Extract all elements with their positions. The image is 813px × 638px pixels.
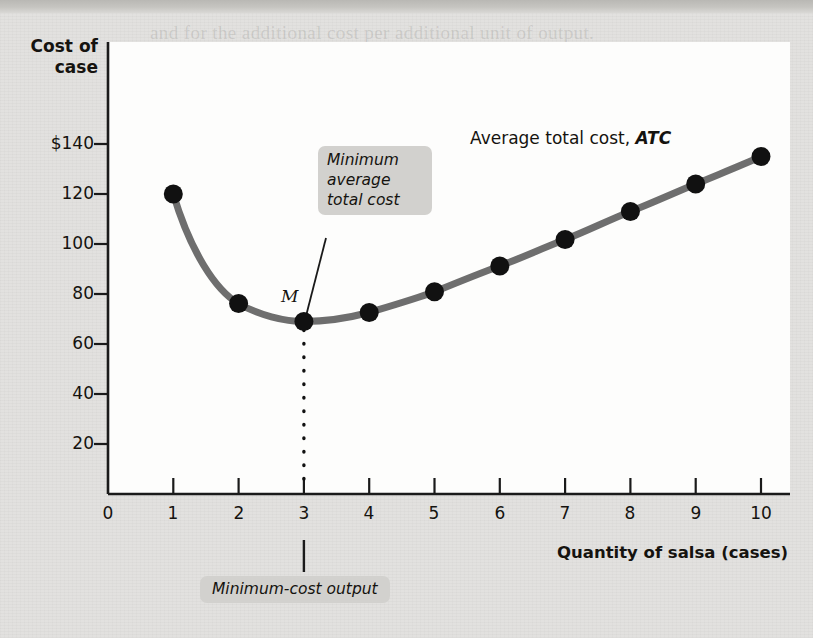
- callout-minimum-average-total-cost: Minimum average total cost: [318, 146, 432, 215]
- callout-minimum-cost-output: Minimum-cost output: [200, 576, 390, 603]
- data-point: [621, 202, 640, 221]
- x-tick-label: 0: [88, 503, 128, 523]
- data-point: [686, 175, 705, 194]
- data-point-markers: [164, 147, 771, 331]
- point-label-m: M: [281, 286, 298, 306]
- data-point: [490, 257, 509, 276]
- y-tick-label: 40: [8, 383, 94, 403]
- x-tick-label: 4: [349, 503, 389, 523]
- data-point: [425, 282, 444, 301]
- x-tick-label: 10: [741, 503, 781, 523]
- y-tick-label: 100: [8, 233, 94, 253]
- atc-curve: [173, 157, 761, 322]
- y-tick-label: $140: [8, 133, 94, 153]
- series-label-symbol: ATC: [636, 128, 672, 148]
- data-point: [229, 294, 248, 313]
- series-label-text: Average total cost,: [470, 128, 636, 148]
- x-tick-label: 5: [414, 503, 454, 523]
- series-label: Average total cost, ATC: [470, 128, 671, 148]
- x-tick-label: 6: [480, 503, 520, 523]
- data-point: [556, 230, 575, 249]
- x-tick-label: 1: [153, 503, 193, 523]
- x-axis-title: Quantity of salsa (cases): [540, 542, 788, 563]
- y-axis-ticks: [94, 144, 108, 444]
- data-point: [360, 303, 379, 322]
- x-tick-label: 3: [284, 503, 324, 523]
- x-tick-label: 7: [545, 503, 585, 523]
- data-point: [294, 312, 313, 331]
- data-point: [164, 185, 183, 204]
- callout-leader-line: [305, 238, 326, 320]
- x-tick-label: 8: [610, 503, 650, 523]
- y-tick-label: 80: [8, 283, 94, 303]
- y-tick-label: 20: [8, 433, 94, 453]
- data-point: [752, 147, 771, 166]
- y-tick-label: 60: [8, 333, 94, 353]
- y-tick-label: 120: [8, 183, 94, 203]
- figure-page: and for the additional cost per addition…: [0, 0, 813, 638]
- x-tick-label: 2: [219, 503, 259, 523]
- x-axis-ticks: [173, 478, 761, 494]
- y-axis-title: Cost of case: [8, 36, 98, 78]
- x-tick-label: 9: [676, 503, 716, 523]
